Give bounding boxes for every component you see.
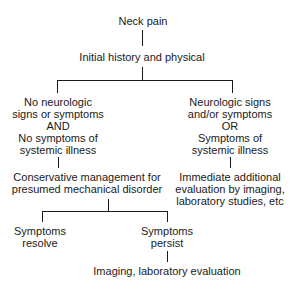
node-immediate-evaluation: Immediate additional evaluation by imagi…: [175, 171, 284, 207]
connector-line: [42, 211, 43, 222]
node-label: resolve: [14, 237, 66, 249]
node-label: laboratory studies, etc: [175, 195, 284, 207]
node-label: presumed mechanical disorder: [12, 183, 162, 195]
node-label: Conservative management for: [12, 171, 162, 183]
node-label: Neck pain: [119, 15, 168, 27]
connector-line: [57, 80, 58, 93]
connector-line: [230, 157, 231, 168]
branch-line: [42, 211, 168, 212]
node-label: OR: [188, 120, 272, 132]
node-label: systemic illness: [188, 144, 272, 156]
node-label: Symptoms: [14, 225, 66, 237]
node-label: persist: [141, 237, 193, 249]
node-conservative-management: Conservative management for presumed mec…: [12, 171, 162, 195]
connector-line: [142, 67, 143, 80]
connector-line: [232, 80, 233, 93]
node-label: signs or symptoms: [12, 108, 104, 120]
node-no-neurologic: No neurologic signs or symptoms AND No s…: [12, 96, 104, 156]
connector-line: [142, 30, 143, 46]
connector-line: [167, 251, 168, 262]
node-label: Immediate additional: [175, 171, 284, 183]
node-neck-pain: Neck pain: [119, 15, 168, 27]
node-label: systemic illness: [12, 144, 104, 156]
node-label: and/or symptoms: [188, 108, 272, 120]
node-label: No symptoms of: [12, 132, 104, 144]
node-label: Symptoms of: [188, 132, 272, 144]
node-label: Symptoms: [141, 225, 193, 237]
node-label: Neurologic signs: [188, 96, 272, 108]
node-neurologic-signs: Neurologic signs and/or symptoms OR Symp…: [188, 96, 272, 156]
node-symptoms-persist: Symptoms persist: [141, 225, 193, 249]
branch-line: [57, 80, 233, 81]
node-label: AND: [12, 120, 104, 132]
connector-line: [167, 211, 168, 222]
node-label: Imaging, laboratory evaluation: [93, 265, 240, 277]
node-label: evaluation by imaging,: [175, 183, 284, 195]
node-initial-history: Initial history and physical: [79, 51, 204, 63]
node-label: No neurologic: [12, 96, 104, 108]
node-imaging-lab-evaluation: Imaging, laboratory evaluation: [93, 265, 240, 277]
connector-line: [108, 199, 109, 211]
connector-line: [58, 157, 59, 168]
node-label: Initial history and physical: [79, 51, 204, 63]
node-symptoms-resolve: Symptoms resolve: [14, 225, 66, 249]
